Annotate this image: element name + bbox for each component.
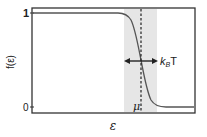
x-axis-label: ε	[110, 119, 116, 133]
mu-label: μ	[133, 100, 140, 113]
fermi-dirac-chart: 1 0 f(ε) ε μ kBT	[0, 0, 207, 137]
y-axis-label: f(ε)	[5, 55, 16, 69]
kbt-label-T: T	[170, 55, 177, 67]
y-tick-1-label: 1	[23, 7, 29, 19]
kbt-label: kBT	[160, 55, 177, 68]
y-tick-0-label: 0	[23, 102, 29, 113]
